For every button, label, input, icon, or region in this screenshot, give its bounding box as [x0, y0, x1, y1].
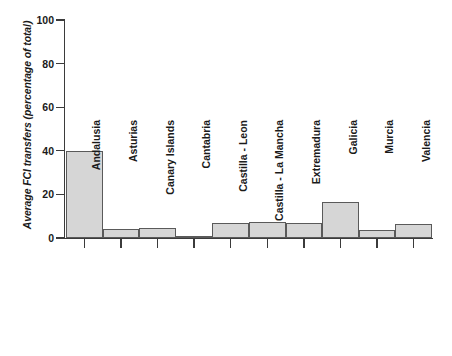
x-axis-label-2: Canary Islands	[163, 120, 177, 250]
x-tick-1	[120, 239, 121, 248]
y-tick-0	[56, 237, 65, 238]
x-axis-label-0: Andalusia	[89, 120, 103, 250]
x-tick-0	[84, 239, 85, 248]
y-tick-label-20: 20	[10, 189, 54, 200]
x-tick-7	[340, 239, 341, 248]
x-tick-9	[413, 239, 414, 248]
y-tick-40	[56, 150, 65, 151]
y-axis-label: Average FCI transfers (percentage of tot…	[18, 0, 36, 250]
x-axis-label-9: Valencia	[419, 120, 433, 250]
bar-chart: Average FCI transfers (percentage of tot…	[0, 0, 452, 356]
y-tick-label-0: 0	[10, 233, 54, 244]
x-axis-label-1: Asturias	[126, 120, 140, 250]
x-axis-label-6: Extremadura	[309, 120, 323, 250]
x-axis-label-4: Castilla - Leon	[236, 120, 250, 250]
x-axis-label-8: Murcia	[382, 120, 396, 250]
y-tick-label-80: 80	[10, 59, 54, 70]
y-tick-label-100: 100	[10, 15, 54, 26]
x-tick-4	[230, 239, 231, 248]
x-tick-8	[376, 239, 377, 248]
y-tick-100	[56, 19, 65, 20]
x-tick-2	[157, 239, 158, 248]
y-tick-label-60: 60	[10, 102, 54, 113]
x-axis-label-3: Cantabria	[199, 120, 213, 250]
x-tick-3	[193, 239, 194, 248]
x-axis-label-7: Galicia	[346, 120, 360, 250]
x-tick-6	[303, 239, 304, 248]
y-tick-label-40: 40	[10, 146, 54, 157]
y-tick-80	[56, 63, 65, 64]
x-tick-5	[267, 239, 268, 248]
y-tick-20	[56, 194, 65, 195]
y-tick-60	[56, 107, 65, 108]
x-axis-label-5: Castilla - La Mancha	[272, 120, 286, 250]
